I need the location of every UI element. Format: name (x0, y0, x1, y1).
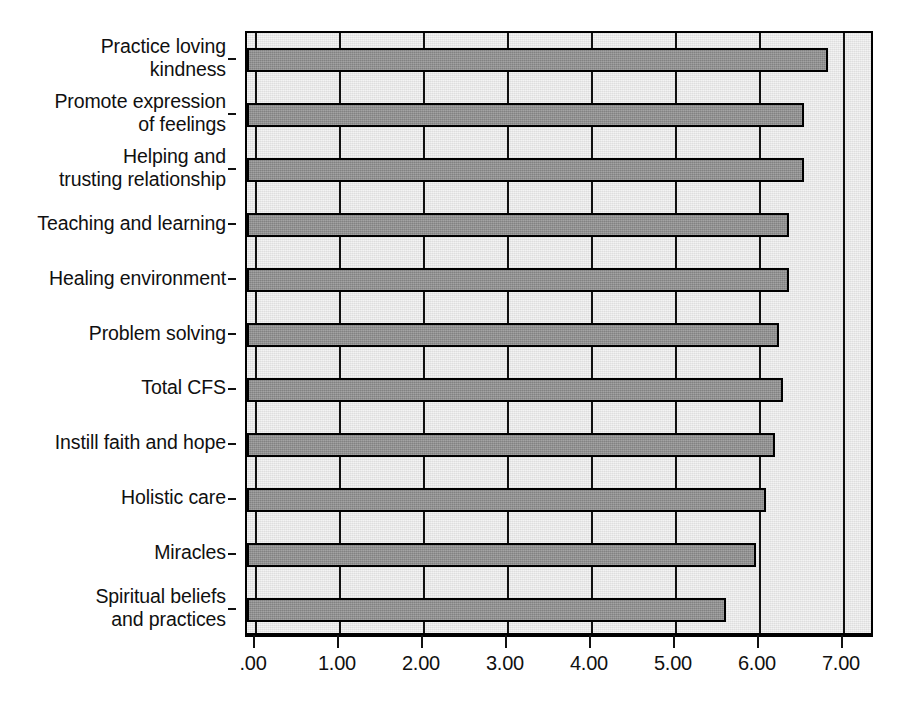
category-tick (228, 168, 236, 170)
value-tick-label: .00 (213, 652, 293, 675)
bar (247, 213, 789, 237)
category-axis: Practice loving kindnessPromote expressi… (0, 31, 236, 635)
value-tick (337, 635, 339, 648)
bar (247, 158, 804, 182)
bar (247, 268, 789, 292)
value-tick (757, 635, 759, 648)
category-label: Miracles (0, 541, 236, 564)
category-label: Promote expression of feelings (0, 90, 236, 136)
value-tick-label: 4.00 (549, 652, 629, 675)
value-tick (841, 635, 843, 648)
category-label: Holistic care (0, 486, 236, 509)
category-tick (228, 443, 236, 445)
category-label: Helping and trusting relationship (0, 145, 236, 191)
value-tick-label: 1.00 (297, 652, 377, 675)
bar (247, 378, 783, 402)
category-tick (228, 113, 236, 115)
category-tick (228, 278, 236, 280)
category-label: Teaching and learning (0, 212, 236, 235)
value-tick (421, 635, 423, 648)
value-tick (253, 635, 255, 648)
value-tick-label: 7.00 (801, 652, 881, 675)
value-tick-label: 2.00 (381, 652, 461, 675)
gridline-7-00 (843, 33, 845, 633)
category-label: Spiritual beliefs and practices (0, 585, 236, 631)
value-tick-label: 6.00 (717, 652, 797, 675)
category-tick (228, 223, 236, 225)
bar (247, 323, 779, 347)
category-label: Practice loving kindness (0, 35, 236, 81)
value-axis-line (245, 635, 873, 637)
value-tick (673, 635, 675, 648)
value-tick-label: 3.00 (465, 652, 545, 675)
category-tick (228, 608, 236, 610)
bar (247, 103, 804, 127)
bar (247, 488, 766, 512)
category-label: Healing environment (0, 267, 236, 290)
category-tick (228, 553, 236, 555)
category-tick (228, 388, 236, 390)
bar (247, 48, 828, 72)
bar (247, 598, 726, 622)
bar (247, 433, 775, 457)
category-label: Total CFS (0, 376, 236, 399)
value-tick (505, 635, 507, 648)
plot-area (245, 31, 873, 635)
value-axis (245, 635, 873, 649)
category-label: Instill faith and hope (0, 431, 236, 454)
category-label: Problem solving (0, 322, 236, 345)
bar (247, 543, 756, 567)
category-tick (228, 58, 236, 60)
value-tick (589, 635, 591, 648)
category-tick (228, 333, 236, 335)
value-tick-label: 5.00 (633, 652, 713, 675)
category-tick (228, 498, 236, 500)
horizontal-bar-chart: Practice loving kindnessPromote expressi… (0, 0, 903, 707)
